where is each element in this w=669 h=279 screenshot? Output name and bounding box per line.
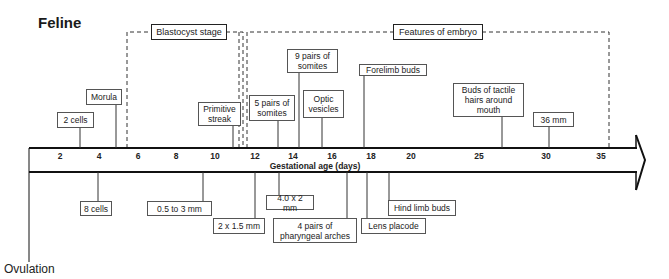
tick-label: 10 <box>210 151 219 161</box>
tick-label: 4 <box>97 151 102 161</box>
tick-label: 35 <box>596 151 605 161</box>
stems-below <box>98 172 389 218</box>
event-hind-limb-buds: Hind limb buds <box>388 200 456 216</box>
tick-label: 14 <box>288 151 297 161</box>
tick-label: 20 <box>406 151 415 161</box>
event-0.5-to-3mm: 0.5 to 3 mm <box>147 201 212 216</box>
axis-title: Gestational age (days) <box>270 161 361 171</box>
event-lens-placode: Lens placode <box>361 218 426 234</box>
event-9-pairs-somites: 9 pairs of somites <box>287 49 338 73</box>
event-pharyngeal-arches: 4 pairs of pharyngeal arches <box>273 218 357 243</box>
tick-label: 25 <box>474 151 483 161</box>
event-5-pairs-somites: 5 pairs of somites <box>249 95 295 121</box>
event-4x2mm: 4.0 x 2 mm <box>266 195 314 210</box>
event-primitive-streak: Primitive streak <box>198 102 241 126</box>
tick-label: 16 <box>327 151 336 161</box>
event-optic-vesicles: Optic vesicles <box>303 90 344 118</box>
tick-label: 12 <box>250 151 259 161</box>
diagram-title: Feline <box>38 14 81 31</box>
event-2x1.5mm: 2 x 1.5 mm <box>213 218 265 234</box>
ovulation-label: Ovulation <box>4 262 55 276</box>
event-36mm: 36 mm <box>533 112 574 127</box>
blastocyst-region <box>127 32 243 148</box>
event-forelimb-buds: Forelimb buds <box>359 64 427 76</box>
blastocyst-stage-label: Blastocyst stage <box>151 24 227 40</box>
tick-label: 2 <box>58 151 63 161</box>
event-8-cells: 8 cells <box>80 201 112 216</box>
tick-label: 8 <box>174 151 179 161</box>
event-tactile-hair-buds: Buds of tactile hairs around mouth <box>453 83 524 117</box>
features-of-embryo-label: Features of embryo <box>393 24 483 40</box>
tick-label: 6 <box>136 151 141 161</box>
tick-label: 30 <box>541 151 550 161</box>
event-2-cells: 2 cells <box>57 112 94 128</box>
tick-label: 18 <box>366 151 375 161</box>
event-morula: Morula <box>86 89 122 105</box>
